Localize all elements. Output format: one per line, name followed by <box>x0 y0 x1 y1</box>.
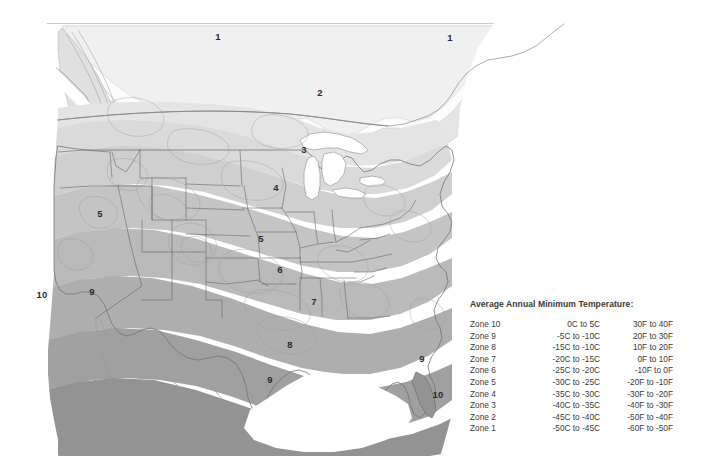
legend-row-zone-8: Zone 8 -15C to -10C 10F to 20F <box>470 342 673 354</box>
legend-zone-1-fahrenheit: -60F to -50F <box>600 423 673 435</box>
legend-zone-3-name: Zone 3 <box>470 400 532 412</box>
hardiness-zone-map-page: 1 1 2 3 4 5 5 6 7 8 9 9 10 9 10 Average … <box>0 0 701 457</box>
legend-zone-2-celsius: -45C to -40C <box>532 412 600 424</box>
legend-row-zone-10: Zone 10 0C to 5C 30F to 40F <box>470 319 673 331</box>
legend-zone-7-fahrenheit: 0F to 10F <box>600 354 673 366</box>
zone-label-5-nevada: 5 <box>97 209 102 219</box>
legend-zone-9-name: Zone 9 <box>470 331 532 343</box>
legend: Average Annual Minimum Temperature: Zone… <box>470 299 680 435</box>
legend-zone-3-celsius: -40C to -35C <box>532 400 600 412</box>
legend-row-zone-9: Zone 9 -5C to -10C 20F to 30F <box>470 331 673 343</box>
zone-label-6-kansas: 6 <box>277 265 282 275</box>
legend-row-zone-3: Zone 3 -40C to -35C -40F to -30F <box>470 400 673 412</box>
legend-zone-5-celsius: -30C to -25C <box>532 377 600 389</box>
zone-label-10-florida: 10 <box>433 390 444 400</box>
zone-label-3-minnesota: 3 <box>301 145 306 155</box>
legend-zone-5-fahrenheit: -20F to -10F <box>600 377 673 389</box>
legend-row-zone-6: Zone 6 -25C to -20C -10F to 0F <box>470 365 673 377</box>
legend-zone-2-fahrenheit: -50F to -40F <box>600 412 673 424</box>
legend-zone-10-celsius: 0C to 5C <box>532 319 600 331</box>
zone-label-9-florida: 9 <box>419 354 424 364</box>
legend-zone-9-celsius: -5C to -10C <box>532 331 600 343</box>
legend-row-zone-7: Zone 7 -20C to -15C 0F to 10F <box>470 354 673 366</box>
legend-zone-8-name: Zone 8 <box>470 342 532 354</box>
legend-zone-8-celsius: -15C to -10C <box>532 342 600 354</box>
legend-zone-6-celsius: -25C to -20C <box>532 365 600 377</box>
legend-zone-1-celsius: -50C to -45C <box>532 423 600 435</box>
legend-zone-5-name: Zone 5 <box>470 377 532 389</box>
legend-zone-3-fahrenheit: -40F to -30F <box>600 400 673 412</box>
legend-zone-2-name: Zone 2 <box>470 412 532 424</box>
legend-row-zone-4: Zone 4 -35C to -30C -30F to -20F <box>470 389 673 401</box>
legend-row-zone-5: Zone 5 -30C to -25C -20F to -10F <box>470 377 673 389</box>
legend-zone-1-name: Zone 1 <box>470 423 532 435</box>
zone-label-5-kansas: 5 <box>258 234 263 244</box>
zone-label-10-pacific: 10 <box>37 290 48 300</box>
legend-zone-4-celsius: -35C to -30C <box>532 389 600 401</box>
legend-title: Average Annual Minimum Temperature: <box>470 299 680 309</box>
legend-row-zone-1: Zone 1 -50C to -45C -60F to -50F <box>470 423 673 435</box>
lake-michigan <box>304 156 320 200</box>
zone-label-2-canada: 2 <box>317 88 322 98</box>
legend-zone-10-name: Zone 10 <box>470 319 532 331</box>
zone-label-1-canada-west: 1 <box>215 32 220 42</box>
zone-label-7-arkansas: 7 <box>311 297 316 307</box>
legend-zone-8-fahrenheit: 10F to 20F <box>600 342 673 354</box>
legend-zone-6-fahrenheit: -10F to 0F <box>600 365 673 377</box>
border-sc-ga <box>348 276 374 282</box>
zone-label-9-california: 9 <box>89 287 94 297</box>
zone-label-4-dakotas: 4 <box>273 183 278 193</box>
legend-zone-7-celsius: -20C to -15C <box>532 354 600 366</box>
zone-label-8-texas: 8 <box>287 340 292 350</box>
legend-zone-4-fahrenheit: -30F to -20F <box>600 389 673 401</box>
zone-label-1-canada-east: 1 <box>447 33 452 43</box>
legend-zone-6-name: Zone 6 <box>470 365 532 377</box>
legend-zone-10-fahrenheit: 30F to 40F <box>600 319 673 331</box>
zone-label-9-texas: 9 <box>267 375 272 385</box>
legend-zone-7-name: Zone 7 <box>470 354 532 366</box>
legend-table: Zone 10 0C to 5C 30F to 40F Zone 9 -5C t… <box>470 319 673 435</box>
legend-zone-9-fahrenheit: 20F to 30F <box>600 331 673 343</box>
legend-zone-4-name: Zone 4 <box>470 389 532 401</box>
legend-row-zone-2: Zone 2 -45C to -40C -50F to -40F <box>470 412 673 424</box>
